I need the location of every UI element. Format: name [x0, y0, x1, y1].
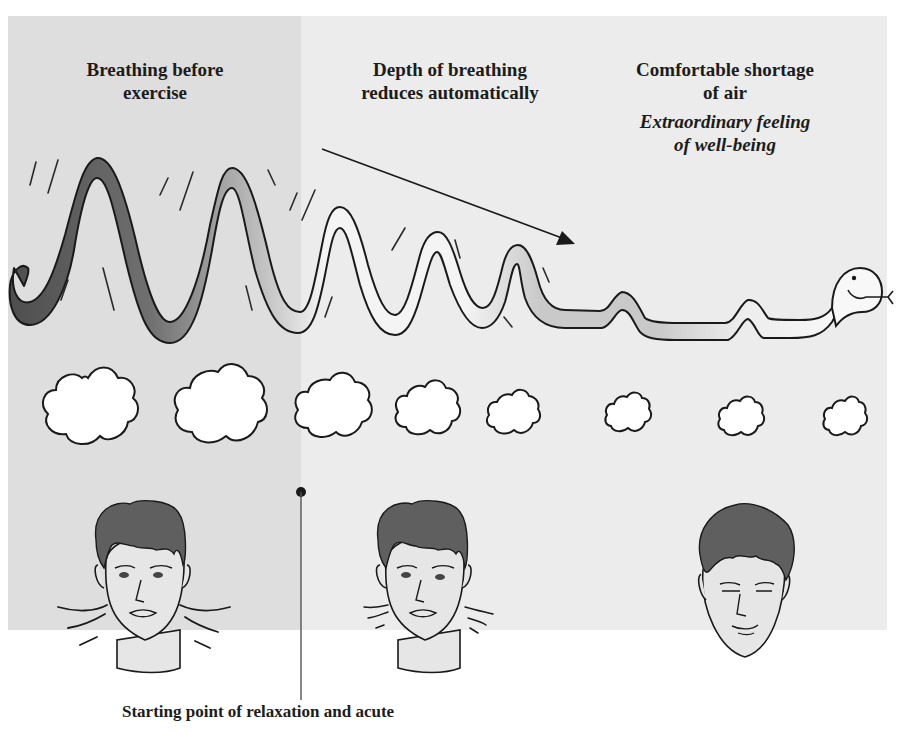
- cloud-icon: [295, 373, 372, 437]
- starting-point-marker: [296, 487, 306, 700]
- illustration: [0, 0, 897, 731]
- snake-eye-icon: [852, 276, 856, 280]
- cloud-icon: [396, 380, 461, 434]
- cloud-icon: [175, 364, 267, 442]
- relaxed-face-icon: [699, 504, 795, 657]
- cloud-icon: [605, 393, 651, 432]
- cloud-icon: [43, 368, 138, 445]
- tense-face-icon: [58, 501, 230, 673]
- calmer-face-icon: [364, 501, 493, 673]
- cloud-icon: [718, 397, 764, 436]
- breathing-wave-snake: [10, 158, 893, 343]
- breath-clouds: [43, 364, 867, 444]
- cloud-icon: [487, 390, 540, 434]
- cloud-icon: [823, 397, 867, 436]
- starting-point-caption: Starting point of relaxation and acute: [122, 702, 394, 722]
- decrease-arrow-icon: [322, 149, 575, 245]
